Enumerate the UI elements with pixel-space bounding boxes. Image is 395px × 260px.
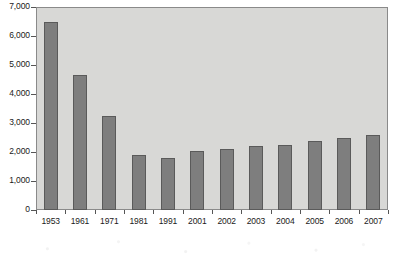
x-axis-tick-mark	[212, 210, 213, 214]
x-axis-tick-mark	[359, 210, 360, 214]
x-axis-tick-label: 1991	[153, 216, 182, 226]
x-axis-tick-label: 2003	[241, 216, 270, 226]
x-axis-tick-mark	[153, 210, 154, 214]
x-axis-tick-label: 1953	[36, 216, 65, 226]
x-axis-tick-label: 1961	[65, 216, 94, 226]
bar-2007	[366, 135, 380, 210]
bar-2002	[220, 149, 234, 210]
bar-1961	[73, 75, 87, 210]
x-axis-tick-label: 2006	[329, 216, 358, 226]
bar-chart-figure: 01,0002,0003,0004,0005,0006,0007,000 195…	[0, 0, 395, 260]
x-axis-tick-label: 2001	[183, 216, 212, 226]
x-axis-tick-mark	[300, 210, 301, 214]
x-axis-tick-mark	[124, 210, 125, 214]
x-axis-tick-label: 2007	[359, 216, 388, 226]
bar-2006	[337, 138, 351, 210]
x-axis-tick-label: 2005	[300, 216, 329, 226]
x-axis-tick-label: 2002	[212, 216, 241, 226]
bar-2003	[249, 146, 263, 210]
x-axis-tick-mark	[65, 210, 66, 214]
x-axis-tick-mark	[241, 210, 242, 214]
x-axis-tick-mark	[36, 210, 37, 214]
x-axis-tick-label: 1981	[124, 216, 153, 226]
x-axis-tick-mark	[183, 210, 184, 214]
x-axis-tick-label: 1971	[95, 216, 124, 226]
x-axis-tick-mark	[95, 210, 96, 214]
x-axis-tick-mark	[329, 210, 330, 214]
bar-2001	[190, 151, 204, 210]
bar-1991	[161, 158, 175, 210]
x-axis-tick-mark	[388, 210, 389, 214]
bar-1981	[132, 155, 146, 210]
x-axis-tick-mark	[271, 210, 272, 214]
bar-1953	[44, 22, 58, 211]
bar-2004	[278, 145, 292, 210]
bar-1971	[102, 116, 116, 210]
bar-2005	[308, 141, 322, 210]
x-axis-tick-marks	[36, 210, 388, 215]
x-axis-tick-label: 2004	[271, 216, 300, 226]
x-axis: 1953196119711981199120012002200320042005…	[36, 216, 388, 230]
